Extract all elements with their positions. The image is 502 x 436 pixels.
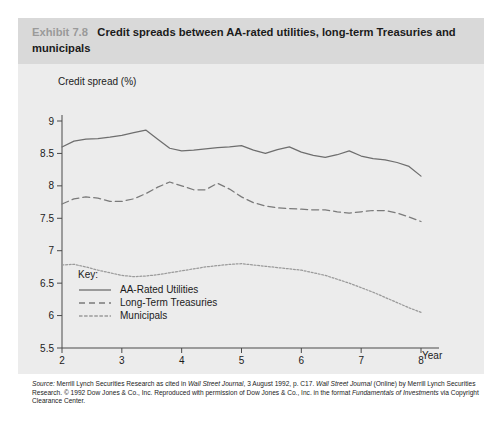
svg-text:9: 9 xyxy=(48,116,54,127)
svg-text:8.5: 8.5 xyxy=(40,148,54,159)
chart-legend: Key: AA-Rated Utilities Long-Term Treasu… xyxy=(78,269,217,322)
legend-heading: Key: xyxy=(78,269,217,280)
legend-item-utilities: AA-Rated Utilities xyxy=(78,283,217,296)
svg-text:7: 7 xyxy=(358,355,364,366)
chart-panel: Credit spread (%) 5.566.577.588.59234567… xyxy=(18,64,484,374)
legend-swatch-dashed xyxy=(78,298,112,308)
svg-text:7.5: 7.5 xyxy=(40,213,54,224)
exhibit-number: Exhibit 7.8 xyxy=(32,26,88,38)
legend-item-treasuries: Long-Term Treasuries xyxy=(78,296,217,309)
svg-text:2: 2 xyxy=(59,355,65,366)
legend-swatch-dotted xyxy=(78,311,112,321)
legend-label-municipals: Municipals xyxy=(120,310,167,321)
svg-text:4: 4 xyxy=(179,355,185,366)
exhibit-figure: Exhibit 7.8 Credit spreads between AA-ra… xyxy=(18,18,484,418)
legend-label-utilities: AA-Rated Utilities xyxy=(120,284,198,295)
svg-text:3: 3 xyxy=(119,355,125,366)
legend-item-municipals: Municipals xyxy=(78,309,217,322)
x-axis-label: Year xyxy=(422,350,443,361)
legend-label-treasuries: Long-Term Treasuries xyxy=(120,297,217,308)
chart-tick-labels: 5.566.577.588.592345678 xyxy=(40,116,424,367)
svg-text:5.5: 5.5 xyxy=(40,343,54,354)
svg-text:6.5: 6.5 xyxy=(40,278,54,289)
svg-text:6: 6 xyxy=(299,355,305,366)
svg-text:6: 6 xyxy=(48,310,54,321)
source-note: Source: Merrill Lynch Securities Researc… xyxy=(32,380,480,406)
exhibit-title-band: Exhibit 7.8 Credit spreads between AA-ra… xyxy=(18,18,484,64)
exhibit-title: Exhibit 7.8 Credit spreads between AA-ra… xyxy=(32,24,472,56)
legend-swatch-solid xyxy=(78,285,112,295)
svg-text:5: 5 xyxy=(239,355,245,366)
svg-text:7: 7 xyxy=(48,245,54,256)
credit-spread-line-chart: 5.566.577.588.592345678 Year xyxy=(18,64,484,374)
svg-text:8: 8 xyxy=(48,180,54,191)
